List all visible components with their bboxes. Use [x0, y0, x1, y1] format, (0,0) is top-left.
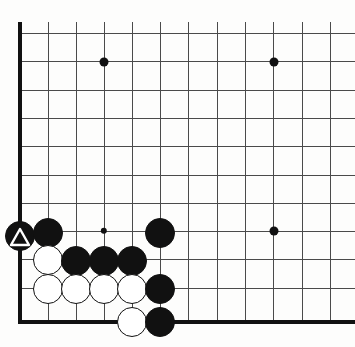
grid-line-vertical-7: [245, 22, 246, 322]
white-stone-w1[interactable]: [33, 245, 63, 275]
white-stone-w3[interactable]: [61, 274, 91, 304]
black-stone-b6[interactable]: [117, 246, 147, 276]
star-point-lower-right: [270, 227, 279, 236]
white-stone-w4[interactable]: [89, 274, 119, 304]
black-stone-b2[interactable]: [33, 218, 63, 248]
black-stone-b3[interactable]: [145, 218, 175, 248]
grid-line-vertical-9: [302, 22, 303, 322]
black-stone-b7[interactable]: [145, 274, 175, 304]
star-point-upper-left: [100, 58, 109, 67]
grid-line-vertical-6: [217, 22, 218, 322]
black-stone-b8[interactable]: [145, 307, 175, 337]
board-edge-left: [18, 22, 22, 324]
star-point-lower-left: [101, 228, 107, 234]
grid-line-vertical-10: [330, 22, 331, 322]
black-stone-b4[interactable]: [61, 246, 91, 276]
go-board-diagram: [0, 0, 355, 347]
star-point-upper-right: [270, 58, 279, 67]
grid-line-vertical-5: [188, 22, 189, 322]
grid-line-vertical-8: [273, 22, 274, 322]
white-stone-w5[interactable]: [117, 274, 147, 304]
black-stone-marked[interactable]: [5, 221, 35, 251]
black-stone-b5[interactable]: [89, 246, 119, 276]
board-edge-bottom: [18, 320, 355, 324]
white-stone-w6[interactable]: [117, 307, 147, 337]
white-stone-w2[interactable]: [33, 274, 63, 304]
